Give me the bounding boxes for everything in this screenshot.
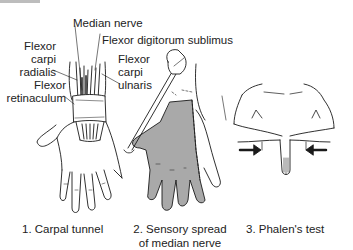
caption-carpal-tunnel-text: 1. Carpal tunnel xyxy=(22,223,103,235)
caption-sensory-spread-line2: of median nerve xyxy=(130,236,230,250)
label-flexor-retinaculum-line2: retinaculum xyxy=(0,92,66,105)
label-flexor-carpi-ulnaris-line1: Flexor xyxy=(118,53,150,66)
label-flexor-carpi-radialis-line2: carpi xyxy=(14,53,56,66)
caption-phalens-test: 3. Phalen's test xyxy=(246,222,336,236)
label-flexor-carpi-radialis-line1: Flexor xyxy=(14,40,56,53)
phalens-test-figure xyxy=(234,84,334,175)
caption-sensory-spread: 2. Sensory spread of median nerve xyxy=(130,222,230,250)
label-flexor-carpi-radialis-line3: radialis xyxy=(4,66,56,79)
label-flexor-retinaculum-line1: Flexor xyxy=(10,79,66,92)
label-median-nerve: Median nerve xyxy=(73,17,143,30)
caption-phalens-test-text: 3. Phalen's test xyxy=(246,223,324,235)
label-flexor-carpi-ulnaris-line2: carpi xyxy=(118,66,143,79)
label-flexor-carpi-ulnaris-line3: ulnaris xyxy=(118,79,152,92)
label-flexor-digitorum-sublimus: Flexor digitorum sublimus xyxy=(102,34,233,47)
caption-sensory-spread-line1: 2. Sensory spread xyxy=(130,222,230,236)
caption-carpal-tunnel: 1. Carpal tunnel xyxy=(22,222,142,236)
